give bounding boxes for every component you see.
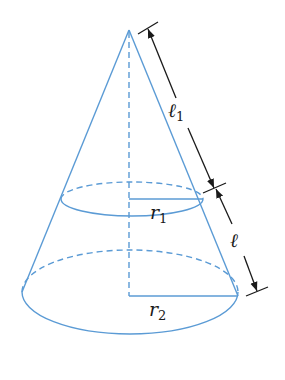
bottom-ellipse-front	[22, 292, 238, 334]
cone-drawing	[0, 0, 285, 380]
bottom-ellipse-back	[22, 250, 238, 292]
l-arrow-up	[216, 189, 232, 224]
tick-middle	[203, 183, 226, 193]
label-l: ℓ	[230, 231, 238, 253]
label-r2: r2	[149, 300, 166, 322]
l-arrow-down	[244, 256, 257, 291]
tick-top	[138, 22, 158, 34]
cone-right-edge	[129, 30, 238, 296]
top-ellipse-back	[61, 182, 203, 199]
top-ellipse-front	[61, 199, 203, 216]
frustum-diagram: ℓ1 ℓ r1 r2	[0, 0, 285, 380]
cone-outline	[22, 30, 238, 334]
dimension-lines	[138, 22, 268, 296]
label-r1: r1	[150, 203, 167, 225]
cone-left-edge	[22, 30, 129, 292]
tick-bottom	[246, 287, 268, 296]
label-l1: ℓ1	[168, 101, 184, 123]
l1-arrow-down	[188, 128, 214, 188]
